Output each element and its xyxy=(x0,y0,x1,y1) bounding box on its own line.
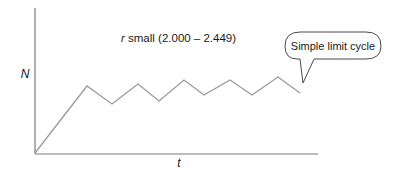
y-axis-label: N xyxy=(21,67,30,81)
x-axis-label: t xyxy=(177,156,181,170)
chart-title: r small (2.000 – 2.449) xyxy=(121,32,236,44)
callout-text: Simple limit cycle xyxy=(291,40,375,52)
callout-bubble: Simple limit cycle xyxy=(285,32,381,83)
title-text: small (2.000 – 2.449) xyxy=(125,32,236,44)
diagram-canvas: N t r small (2.000 – 2.449) Simple limit… xyxy=(0,0,404,180)
limit-cycle-diagram: N t r small (2.000 – 2.449) Simple limit… xyxy=(0,0,404,180)
population-line xyxy=(35,77,300,153)
